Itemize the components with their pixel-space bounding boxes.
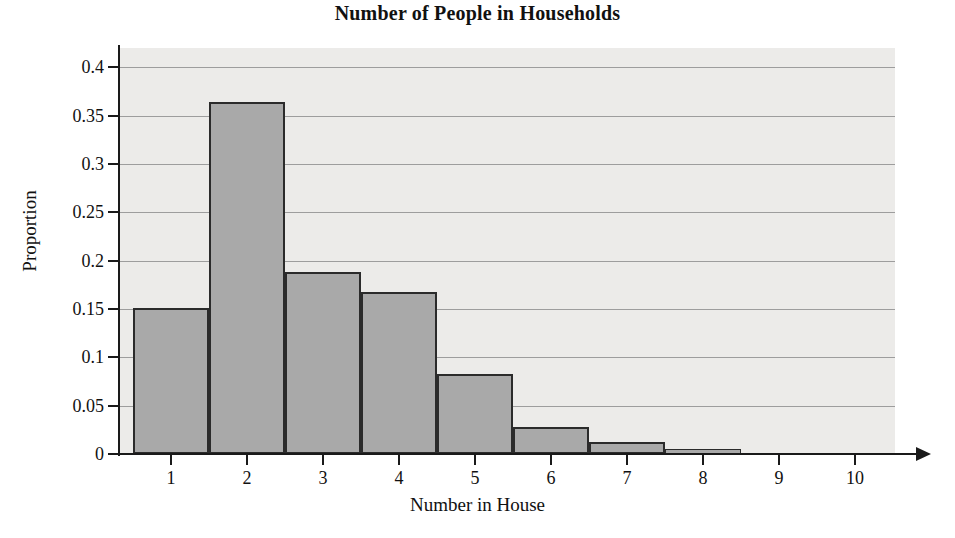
bar-2 xyxy=(209,102,285,454)
x-axis-arrow-icon xyxy=(916,447,931,461)
y-tick-label: 0.25 xyxy=(0,203,104,221)
bar-3 xyxy=(285,272,361,454)
x-tick-label: 1 xyxy=(141,468,201,488)
x-tick-mark xyxy=(550,454,552,465)
y-tick-mark xyxy=(108,211,120,213)
y-tick-mark xyxy=(108,405,120,407)
x-tick-mark xyxy=(854,454,856,465)
y-tick-label: 0.3 xyxy=(0,155,104,173)
y-tick-label: 0.2 xyxy=(0,252,104,270)
x-tick-mark xyxy=(246,454,248,465)
bar-4 xyxy=(361,292,437,454)
x-axis-title: Number in House xyxy=(0,494,955,516)
y-tick-label: 0 xyxy=(0,445,104,463)
y-tick-mark xyxy=(108,453,120,455)
x-tick-label: 5 xyxy=(445,468,505,488)
bar-5 xyxy=(437,374,513,454)
x-tick-mark xyxy=(170,454,172,465)
y-tick-mark xyxy=(108,66,120,68)
y-tick-mark xyxy=(108,163,120,165)
y-axis-title: Proportion xyxy=(19,131,41,331)
bar-1 xyxy=(133,308,209,454)
gridline xyxy=(119,67,895,68)
x-tick-mark xyxy=(778,454,780,465)
x-tick-label: 8 xyxy=(673,468,733,488)
histogram-figure: Number of People in Households 00.050.10… xyxy=(0,0,955,538)
plot-area xyxy=(119,48,895,454)
x-tick-label: 9 xyxy=(749,468,809,488)
x-tick-label: 6 xyxy=(521,468,581,488)
x-tick-label: 2 xyxy=(217,468,277,488)
x-axis-line xyxy=(119,453,919,455)
y-tick-label: 0.35 xyxy=(0,107,104,125)
y-tick-mark xyxy=(108,356,120,358)
y-tick-mark xyxy=(108,115,120,117)
y-tick-mark xyxy=(108,260,120,262)
y-tick-mark xyxy=(108,308,120,310)
x-tick-mark xyxy=(474,454,476,465)
x-tick-label: 3 xyxy=(293,468,353,488)
x-tick-mark xyxy=(626,454,628,465)
y-tick-label: 0.05 xyxy=(0,397,104,415)
bar-6 xyxy=(513,427,589,454)
x-tick-label: 4 xyxy=(369,468,429,488)
x-tick-mark xyxy=(398,454,400,465)
x-tick-label: 10 xyxy=(825,468,885,488)
y-axis-line xyxy=(118,45,120,456)
y-tick-label: 0.1 xyxy=(0,348,104,366)
y-tick-label: 0.4 xyxy=(0,58,104,76)
chart-title: Number of People in Households xyxy=(0,0,955,26)
x-tick-mark xyxy=(702,454,704,465)
x-tick-mark xyxy=(322,454,324,465)
x-tick-label: 7 xyxy=(597,468,657,488)
y-tick-label: 0.15 xyxy=(0,300,104,318)
